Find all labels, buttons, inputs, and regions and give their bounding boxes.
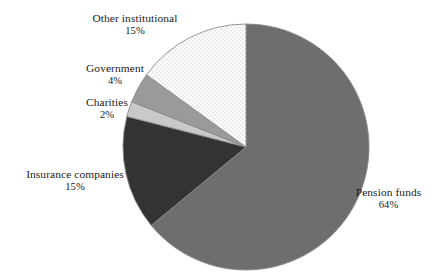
slice-label-percent: 15% xyxy=(0,181,150,193)
slice-label-pension-funds: Pension funds 64% xyxy=(330,186,447,211)
pie-chart-svg xyxy=(0,0,447,279)
slice-label-name: Insurance companies xyxy=(0,168,150,181)
slice-label-percent: 15% xyxy=(55,25,215,37)
pie-chart: Other institutional 15% Government 4% Ch… xyxy=(0,0,447,279)
slice-label-government: Government 4% xyxy=(45,62,185,87)
slice-label-name: Government xyxy=(45,62,185,75)
slice-label-percent: 64% xyxy=(330,199,447,211)
slice-label-charities: Charities 2% xyxy=(42,96,172,121)
slice-label-percent: 2% xyxy=(42,109,172,121)
slice-label-name: Charities xyxy=(42,96,172,109)
slice-label-name: Other institutional xyxy=(55,12,215,25)
slice-label-name: Pension funds xyxy=(330,186,447,199)
slice-label-insurance-companies: Insurance companies 15% xyxy=(0,168,150,193)
pie-slices-group xyxy=(123,24,369,270)
slice-label-percent: 4% xyxy=(45,75,185,87)
slice-label-other-institutional: Other institutional 15% xyxy=(55,12,215,37)
